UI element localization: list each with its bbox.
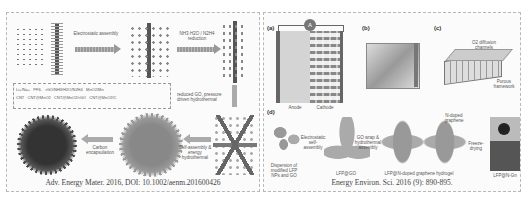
arrow-1-label: Electrostatic self-assembly (300, 135, 326, 150)
hydrogel-flowers (380, 117, 470, 167)
rod-fringe-1 (51, 23, 63, 75)
step3-label: reduced GO, pressure driven hydrothermal (177, 92, 227, 102)
subfig-a-label: (a) (267, 25, 274, 31)
step4-label: Carbon encapsulation (83, 145, 117, 155)
step5-label: Self-assembly & energy hydrothermal (177, 145, 213, 160)
subfig-c-note-1: O2 diffusion channels (464, 40, 504, 50)
step2-label: NH3·H2O / N2H4 reduction (175, 31, 219, 41)
anode-label: Anode (282, 105, 308, 110)
legend-box: Li+/Na+ PF6- rGO/NH3/H2O/N2H4 MnO2/Mn CN… (13, 83, 171, 109)
subfig-b-label: (b) (362, 25, 370, 31)
legend-row-2: CNT CNT@MnO2 CNT@MnO2/rGO CNT@MnO2/C (16, 94, 168, 102)
ammeter-icon: A (304, 19, 316, 31)
right-caption: Energy Environ. Sci. 2016 (9): 890-895. (264, 178, 520, 187)
down-arrow (232, 85, 237, 107)
subfig-d-label: (d) (267, 109, 275, 115)
porous-framework-top (445, 49, 513, 61)
arrow-2-label: GO wrap & hydrothermal assembly (354, 135, 382, 150)
decorated-dots-2 (129, 25, 169, 77)
subfig-b-electrode (414, 43, 418, 87)
step2-arrow (177, 47, 215, 52)
ion-cluster (15, 27, 43, 69)
stage-3-label: LFP@N-doped graphene hydrogel (384, 171, 454, 176)
step5-arrow (189, 137, 211, 142)
step4-arrow (87, 137, 113, 142)
left-caption: Adv. Energy Mater. 2016, DOI: 10.1002/ae… (7, 178, 259, 187)
cathode-electrode (340, 31, 343, 103)
cnt-cross-structure (213, 115, 257, 175)
left-figure-panel: Electrostatic assembly NH3·H2O / N2H4 re… (6, 12, 260, 192)
product-sample (498, 123, 510, 135)
arrow-3-label: Freeze-drying (464, 141, 488, 151)
subfig-c-note-3: Porous framework (490, 79, 518, 89)
n-doped-graphene-tag: N-doped graphene (442, 113, 466, 123)
decorated-dots-3 (221, 23, 247, 81)
right-figure-panel: (a) A Anode Cathode (b) (c) O2 diffusion… (263, 12, 521, 192)
subfig-c-label: (c) (434, 25, 441, 31)
subfig-b-zoom-box (366, 43, 420, 89)
cathode-label: Cathode (310, 105, 340, 110)
dark-spiky-sphere (17, 115, 77, 175)
dispersed-sheets (270, 119, 304, 153)
gray-spiky-sphere (119, 113, 183, 177)
step1-arrow (75, 47, 115, 52)
step1-label: Electrostatic assembly (73, 31, 119, 36)
stage-2-label: LFP@GO (328, 171, 364, 176)
electrolyte-region (280, 31, 310, 103)
legend-row-1: Li+/Na+ PF6- rGO/NH3/H2O/N2H4 MnO2/Mn (16, 86, 168, 94)
stage-1-label: Dispersion of modified LFP NPs and GO (266, 163, 302, 178)
cathode-grid (310, 31, 340, 103)
